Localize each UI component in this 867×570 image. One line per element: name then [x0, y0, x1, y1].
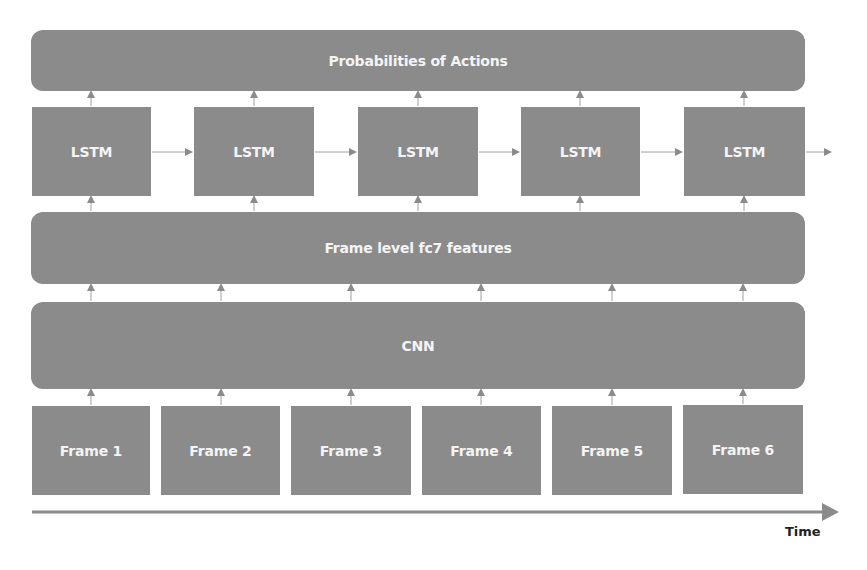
time-axis-label: Time: [785, 524, 821, 539]
connector-arrows: [0, 0, 867, 570]
time-axis: [32, 503, 839, 521]
time-arrowhead-icon: [822, 503, 839, 521]
